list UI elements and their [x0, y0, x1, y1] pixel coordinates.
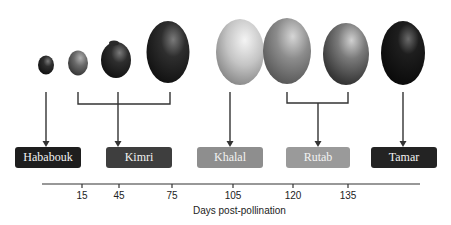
- fruit-kimri-1: [68, 51, 88, 76]
- fruit-tamar: [381, 21, 425, 85]
- fruit-kimri-2: [101, 41, 131, 79]
- stage-label-khalal: Khalal: [214, 150, 246, 165]
- stage-box-tamar: Tamar: [371, 147, 437, 168]
- fruit-rutab-1: [263, 18, 311, 84]
- connector-lines: [46, 92, 403, 142]
- tick-label-45: 45: [113, 190, 124, 201]
- fruit-rutab-2: [323, 23, 369, 85]
- stage-box-hababouk: Hababouk: [15, 147, 81, 168]
- fruit-kimri-3: [147, 21, 190, 83]
- tick-label-135: 135: [340, 190, 357, 201]
- tick-label-75: 75: [166, 190, 177, 201]
- stage-box-kimri: Kimri: [106, 147, 172, 168]
- fruit-khalal: [216, 19, 264, 85]
- axis-title: Days post-pollination: [193, 205, 286, 216]
- time-axis: [42, 184, 420, 188]
- fruit-hababouk: [38, 56, 54, 75]
- stage-label-kimri: Kimri: [125, 150, 154, 165]
- date-fruit-ripening-diagram: Hababouk Kimri Khalal Rutab Tamar 15 45 …: [0, 0, 451, 225]
- stage-box-rutab: Rutab: [286, 147, 350, 168]
- stage-box-khalal: Khalal: [197, 147, 263, 168]
- stage-label-tamar: Tamar: [389, 150, 419, 165]
- stage-label-rutab: Rutab: [304, 150, 333, 165]
- tick-label-105: 105: [225, 190, 242, 201]
- tick-label-120: 120: [285, 190, 302, 201]
- tick-label-15: 15: [76, 190, 87, 201]
- stage-label-hababouk: Hababouk: [23, 150, 72, 165]
